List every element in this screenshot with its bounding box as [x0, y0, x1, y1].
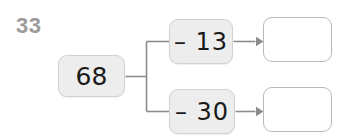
worksheet-canvas: 33 68 – 13 – 30 [0, 0, 344, 139]
operation-label-2: – 30 [175, 100, 229, 124]
operation-label-1: – 13 [174, 30, 228, 54]
problem-number-label: 33 [16, 14, 41, 38]
answer-input-box-2[interactable] [263, 87, 332, 132]
start-value-label: 68 [76, 64, 108, 89]
answer-input-box-1[interactable] [263, 17, 332, 62]
operation-box-2: – 30 [169, 89, 235, 134]
start-value-box: 68 [58, 55, 125, 97]
operation-box-1: – 13 [169, 19, 233, 64]
